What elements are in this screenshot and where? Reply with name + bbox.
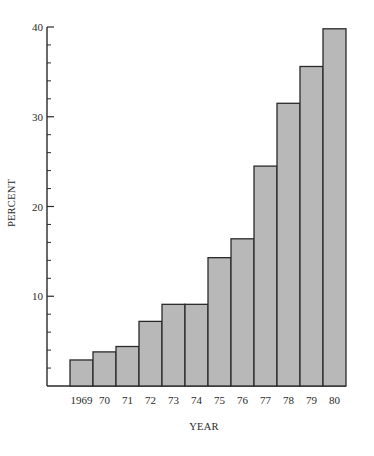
bar — [231, 239, 254, 386]
x-tick-label: 77 — [260, 394, 272, 406]
x-tick-label: 73 — [168, 394, 180, 406]
bar — [70, 360, 93, 386]
x-axis-label: YEAR — [189, 421, 218, 432]
x-tick-label: 79 — [306, 394, 318, 406]
bar — [208, 258, 231, 386]
bar — [139, 321, 162, 386]
y-tick-label: 30 — [32, 111, 44, 123]
bar — [116, 347, 139, 386]
bar — [93, 352, 116, 386]
x-tick-label: 78 — [283, 394, 295, 406]
bar — [300, 66, 323, 386]
x-tick-label: 70 — [99, 394, 111, 406]
bar-chart: 10203040 19697071727374757677787980 PERC… — [0, 0, 374, 456]
x-tick-label: 75 — [214, 394, 226, 406]
x-tick-label: 71 — [122, 394, 133, 406]
y-tick-label: 10 — [32, 290, 44, 302]
x-tick-label: 72 — [145, 394, 156, 406]
bar — [185, 304, 208, 386]
x-tick-label: 80 — [329, 394, 341, 406]
x-tick-label: 74 — [191, 394, 203, 406]
y-axis-label: PERCENT — [6, 179, 17, 227]
bar — [254, 166, 277, 386]
x-tick-label: 1969 — [71, 394, 94, 406]
bar — [277, 103, 300, 386]
bars — [70, 29, 346, 386]
y-tick-label: 20 — [32, 201, 44, 213]
bar — [323, 29, 346, 386]
bar — [162, 304, 185, 386]
x-tick-label: 76 — [237, 394, 249, 406]
x-tick-labels: 19697071727374757677787980 — [71, 394, 341, 406]
y-tick-label: 40 — [32, 21, 44, 33]
